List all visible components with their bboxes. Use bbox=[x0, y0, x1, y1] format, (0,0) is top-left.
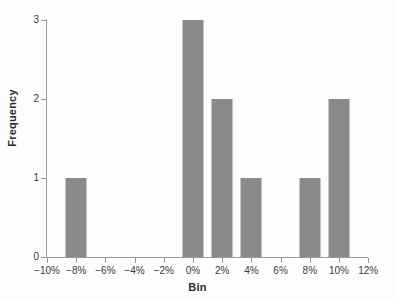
histogram-bar bbox=[329, 99, 350, 257]
x-tick-label: 0% bbox=[186, 265, 200, 276]
y-tick-label: 0 bbox=[29, 252, 39, 262]
y-axis-title: Frequency bbox=[6, 73, 18, 163]
x-tick-mark bbox=[47, 258, 48, 263]
x-tick-mark bbox=[251, 258, 252, 263]
x-tick-label: −10% bbox=[34, 265, 60, 276]
x-tick-label: 4% bbox=[244, 265, 258, 276]
x-tick-label: −2% bbox=[154, 265, 174, 276]
x-tick-label: −4% bbox=[124, 265, 144, 276]
histogram-figure: 0123 −10%−8%−6%−4%−2%0%2%4%6%8%10%12% Bi… bbox=[0, 0, 395, 301]
y-tick-mark bbox=[41, 99, 46, 100]
x-tick-mark bbox=[281, 258, 282, 263]
x-tick-mark bbox=[105, 258, 106, 263]
plot-area bbox=[47, 20, 368, 257]
x-tick-mark bbox=[164, 258, 165, 263]
x-tick-label: −6% bbox=[95, 265, 115, 276]
x-tick-mark bbox=[222, 258, 223, 263]
x-tick-label: 2% bbox=[215, 265, 229, 276]
y-tick-mark bbox=[41, 20, 46, 21]
x-tick-label: −8% bbox=[66, 265, 86, 276]
x-tick-mark bbox=[135, 258, 136, 263]
x-axis-title: Bin bbox=[0, 281, 395, 293]
x-tick-label: 6% bbox=[273, 265, 287, 276]
x-tick-label: 8% bbox=[303, 265, 317, 276]
histogram-bar bbox=[299, 178, 320, 257]
y-tick-mark bbox=[41, 178, 46, 179]
x-axis-line bbox=[46, 257, 368, 258]
x-tick-mark bbox=[368, 258, 369, 263]
histogram-bar bbox=[212, 99, 233, 257]
x-tick-mark bbox=[339, 258, 340, 263]
x-tick-mark bbox=[193, 258, 194, 263]
y-tick-label: 2 bbox=[29, 94, 39, 104]
x-tick-mark bbox=[76, 258, 77, 263]
histogram-bar bbox=[66, 178, 87, 257]
x-tick-label: 10% bbox=[329, 265, 349, 276]
histogram-bar bbox=[241, 178, 262, 257]
x-tick-mark bbox=[310, 258, 311, 263]
y-tick-label: 3 bbox=[29, 15, 39, 25]
x-tick-label: 12% bbox=[358, 265, 378, 276]
y-tick-mark bbox=[41, 257, 46, 258]
histogram-bar bbox=[183, 20, 204, 257]
y-tick-label: 1 bbox=[29, 173, 39, 183]
